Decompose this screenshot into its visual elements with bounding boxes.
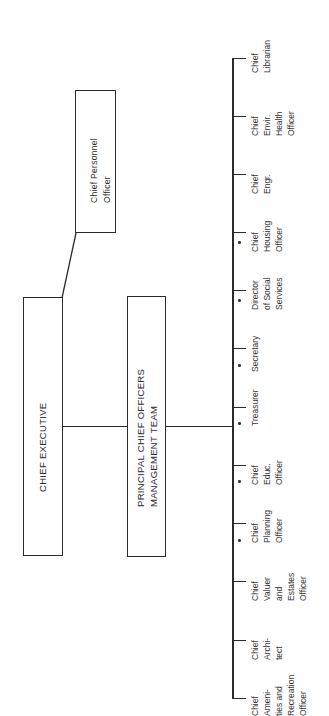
officer-architect: Chief Archi- tect: [249, 638, 285, 660]
officer-envir-health: Chief Envir. Health Officer: [249, 111, 297, 136]
tick-housing: [232, 232, 246, 233]
tick-treasurer: [232, 407, 246, 408]
member-dot-planning: [238, 539, 241, 542]
tick-planning: [232, 523, 246, 524]
officer-amenities: Chief Ameni- ties and Recreation Officer: [249, 675, 309, 716]
chief-personnel-officer-box: Chief Personnel Officer: [75, 90, 116, 233]
tick-engr: [232, 174, 246, 175]
officer-engr: Chief Engr.: [249, 174, 273, 194]
officer-social-services: Director of Social Services: [249, 277, 285, 310]
tick-secretary: [232, 348, 246, 349]
chief-executive-label: CHIEF EXECUTIVE: [36, 403, 49, 493]
officer-housing: Chief Housing Officer: [249, 221, 285, 252]
personnel-line-2: Officer: [101, 138, 114, 203]
tick-amenities: [232, 698, 246, 699]
officer-planning: Chief Planning Officer: [249, 510, 285, 543]
officer-secretary: Secretary: [249, 336, 261, 372]
tick-librarian: [232, 58, 246, 59]
officer-educ: Chief Educ. Officer: [249, 460, 285, 485]
member-dot-housing: [238, 241, 241, 244]
member-dot-social-services: [238, 299, 241, 302]
officer-treasurer: Treasurer: [249, 389, 261, 426]
personnel-line-1: Chief Personnel: [88, 138, 101, 203]
tick-architect: [232, 640, 246, 641]
main-distribution-line: [232, 58, 234, 699]
tick-social-services: [232, 290, 246, 291]
tick-valuer: [232, 581, 246, 582]
principal-team-box: PRINCIPAL CHIEF OFFICERS MANAGEMENT TEAM: [127, 296, 166, 557]
member-dot-treasurer: [238, 422, 241, 425]
principal-team-line-2: MANAGEMENT TEAM: [147, 369, 160, 507]
tick-envir-health: [232, 116, 246, 117]
officer-valuer: Chief Valuer and Estates Officer: [249, 573, 309, 601]
principal-team-line-1: PRINCIPAL CHIEF OFFICERS: [134, 369, 147, 507]
member-dot-educ: [238, 480, 241, 483]
officer-librarian: Chief Librarian: [249, 40, 273, 73]
tick-educ: [232, 465, 246, 466]
chief-executive-box: CHIEF EXECUTIVE: [23, 297, 63, 556]
member-dot-secretary: [238, 364, 241, 367]
